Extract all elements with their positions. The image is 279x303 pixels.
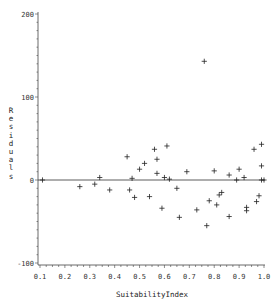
y-tick-label: 200	[21, 11, 34, 19]
data-point-plus-marker	[227, 172, 232, 177]
data-point-plus-marker	[154, 171, 159, 176]
data-point-plus-marker	[256, 193, 261, 198]
data-point-plus-marker	[125, 154, 130, 159]
x-axis: 0.10.20.30.40.50.60.70.80.91.0	[34, 265, 271, 281]
data-point-plus-marker	[214, 202, 219, 207]
data-point-plus-marker	[162, 175, 167, 180]
y-axis-title: Residuals	[9, 106, 14, 181]
data-point-plus-marker	[137, 167, 142, 172]
data-point-plus-marker	[174, 186, 179, 191]
data-point-plus-marker	[164, 143, 169, 148]
data-point-plus-marker	[184, 169, 189, 174]
data-point-plus-marker	[251, 147, 256, 152]
y-tick-label: 0	[30, 177, 34, 185]
x-tick-label: 1.0	[258, 273, 271, 281]
data-point-plus-marker	[237, 167, 242, 172]
x-tick-label: 0.7	[183, 273, 196, 281]
data-point-plus-marker	[194, 207, 199, 212]
data-point-plus-marker	[107, 187, 112, 192]
data-point-plus-marker	[207, 198, 212, 203]
x-tick-label: 0.5	[133, 273, 146, 281]
svg-text:s: s	[9, 172, 14, 181]
data-point-plus-marker	[127, 187, 132, 192]
scatter-plot: 2001000-100 0.10.20.30.40.50.60.70.80.91…	[0, 0, 279, 303]
x-tick-label: 0.4	[108, 273, 121, 281]
data-point-plus-marker	[204, 223, 209, 228]
data-point-plus-marker	[92, 182, 97, 187]
data-point-plus-marker	[259, 163, 264, 168]
y-tick-label: 100	[21, 94, 34, 102]
data-point-plus-marker	[142, 161, 147, 166]
x-tick-label: 0.1	[34, 273, 47, 281]
data-point-plus-marker	[259, 142, 264, 147]
data-point-plus-marker	[254, 199, 259, 204]
data-points	[40, 59, 267, 229]
data-point-plus-marker	[219, 190, 224, 195]
data-point-plus-marker	[261, 177, 266, 182]
data-point-plus-marker	[40, 177, 45, 182]
x-tick-label: 0.9	[233, 273, 246, 281]
x-tick-label: 0.3	[83, 273, 96, 281]
data-point-plus-marker	[227, 214, 232, 219]
data-point-plus-marker	[97, 175, 102, 180]
data-point-plus-marker	[217, 192, 222, 197]
y-tick-label: -100	[17, 260, 34, 268]
x-tick-label: 0.2	[59, 273, 72, 281]
data-point-plus-marker	[147, 194, 152, 199]
x-axis-title: SuitabilityIndex	[116, 290, 189, 299]
data-point-plus-marker	[152, 147, 157, 152]
data-point-plus-marker	[77, 184, 82, 189]
data-point-plus-marker	[241, 175, 246, 180]
data-point-plus-marker	[212, 168, 217, 173]
data-point-plus-marker	[154, 157, 159, 162]
y-axis: 2001000-100	[17, 11, 38, 268]
data-point-plus-marker	[132, 195, 137, 200]
x-tick-label: 0.8	[208, 273, 221, 281]
x-tick-label: 0.6	[158, 273, 171, 281]
data-point-plus-marker	[159, 206, 164, 211]
data-point-plus-marker	[177, 215, 182, 220]
data-point-plus-marker	[167, 177, 172, 182]
data-point-plus-marker	[244, 208, 249, 213]
data-point-plus-marker	[234, 177, 239, 182]
data-point-plus-marker	[202, 59, 207, 64]
